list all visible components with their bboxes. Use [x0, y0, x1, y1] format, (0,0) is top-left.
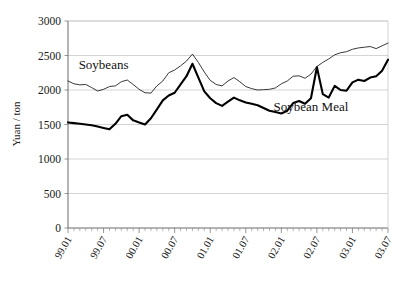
y-axis-title: Yuan / ton — [10, 101, 22, 147]
x-tick-label: 99.07 — [88, 235, 109, 261]
x-tick-label: 01.07 — [230, 235, 251, 261]
x-tick-label: 99.01 — [52, 235, 73, 261]
y-tick-label: 2000 — [38, 84, 61, 96]
y-axis-tick-marks — [65, 21, 69, 228]
x-tick-label: 03.07 — [372, 235, 393, 261]
y-tick-label: 500 — [44, 188, 62, 200]
series-label-soybean-meal: Soybean Meal — [274, 99, 349, 114]
y-axis-tick-labels: 050010001500200025003000 — [38, 15, 61, 234]
y-tick-label: 0 — [55, 222, 61, 234]
x-tick-label: 02.07 — [301, 235, 322, 261]
x-tick-label: 02.01 — [266, 235, 287, 261]
line-chart: 050010001500200025003000 99.0199.0700.01… — [0, 0, 420, 286]
y-tick-label: 2500 — [38, 50, 61, 62]
y-tick-label: 1500 — [38, 119, 61, 131]
y-tick-label: 1000 — [38, 153, 61, 165]
y-tick-label: 3000 — [38, 15, 61, 27]
x-axis-tick-labels: 99.0199.0700.0100.0701.0101.0702.0102.07… — [52, 235, 393, 261]
series-label-soybeans: Soybeans — [79, 57, 129, 72]
chart-container: 050010001500200025003000 99.0199.0700.01… — [0, 0, 420, 286]
x-tick-label: 00.07 — [159, 235, 180, 261]
x-axis-tick-marks — [68, 228, 388, 233]
x-tick-label: 03.01 — [337, 235, 358, 261]
x-tick-label: 01.01 — [195, 235, 216, 261]
x-tick-label: 00.01 — [124, 235, 145, 261]
